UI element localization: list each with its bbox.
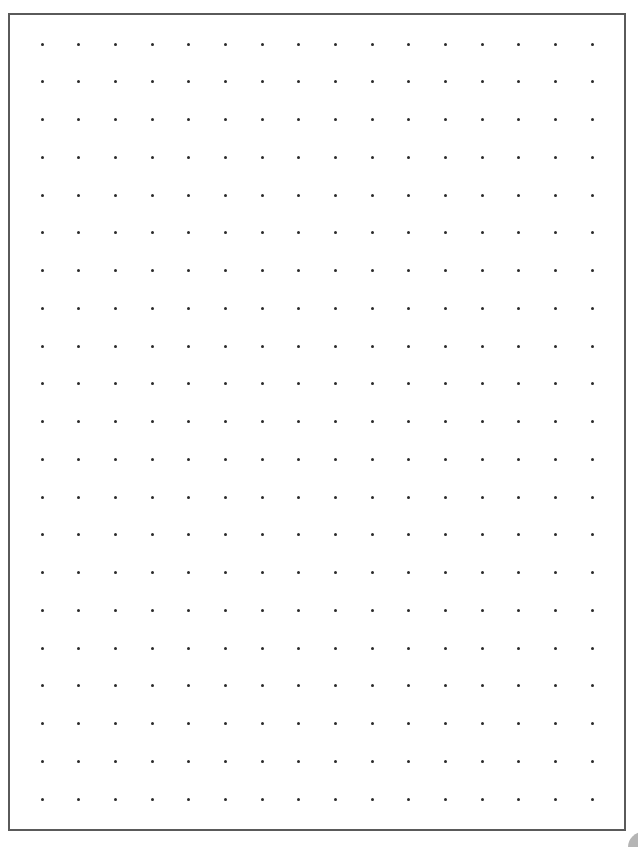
grid-dot xyxy=(371,760,374,763)
grid-dot xyxy=(224,496,227,499)
grid-dot xyxy=(77,760,80,763)
grid-dot xyxy=(554,760,557,763)
grid-dot xyxy=(151,194,154,197)
grid-dot xyxy=(261,609,264,612)
grid-dot xyxy=(481,345,484,348)
grid-dot xyxy=(554,609,557,612)
grid-dot xyxy=(444,43,447,46)
grid-dot xyxy=(77,194,80,197)
grid-dot xyxy=(554,194,557,197)
grid-dot xyxy=(41,798,44,801)
grid-dot xyxy=(114,458,117,461)
grid-dot xyxy=(517,647,520,650)
grid-dot xyxy=(41,231,44,234)
grid-dot xyxy=(371,609,374,612)
grid-dot xyxy=(481,496,484,499)
grid-dot xyxy=(41,80,44,83)
grid-dot xyxy=(444,760,447,763)
grid-dot xyxy=(591,458,594,461)
grid-dot xyxy=(261,43,264,46)
grid-dot xyxy=(591,571,594,574)
grid-dot xyxy=(224,458,227,461)
grid-dot xyxy=(41,420,44,423)
grid-dot xyxy=(261,684,264,687)
grid-dot xyxy=(114,345,117,348)
grid-dot xyxy=(554,458,557,461)
grid-dot xyxy=(554,798,557,801)
grid-dot xyxy=(297,496,300,499)
grid-dot xyxy=(591,269,594,272)
grid-dot xyxy=(591,533,594,536)
grid-dot xyxy=(151,760,154,763)
grid-dot xyxy=(517,345,520,348)
grid-dot xyxy=(334,458,337,461)
grid-dot xyxy=(297,156,300,159)
grid-dot xyxy=(41,156,44,159)
grid-dot xyxy=(371,571,374,574)
grid-dot xyxy=(224,571,227,574)
grid-dot xyxy=(444,458,447,461)
grid-dot xyxy=(187,798,190,801)
grid-dot xyxy=(114,156,117,159)
grid-dot xyxy=(591,760,594,763)
grid-dot xyxy=(444,345,447,348)
grid-dot xyxy=(591,194,594,197)
grid-dot xyxy=(481,420,484,423)
grid-dot xyxy=(151,571,154,574)
grid-dot xyxy=(261,156,264,159)
grid-dot xyxy=(444,647,447,650)
grid-dot xyxy=(554,647,557,650)
grid-dot xyxy=(261,382,264,385)
grid-dot xyxy=(444,420,447,423)
grid-dot xyxy=(297,458,300,461)
grid-dot xyxy=(407,458,410,461)
grid-dot xyxy=(151,647,154,650)
grid-dot xyxy=(41,496,44,499)
grid-dot xyxy=(481,307,484,310)
grid-dot xyxy=(591,609,594,612)
grid-dot xyxy=(334,496,337,499)
grid-dot xyxy=(261,118,264,121)
grid-dot xyxy=(41,345,44,348)
grid-dot xyxy=(151,118,154,121)
grid-dot xyxy=(114,496,117,499)
grid-dot xyxy=(444,307,447,310)
grid-dot xyxy=(224,420,227,423)
grid-dot xyxy=(371,420,374,423)
grid-dot xyxy=(407,43,410,46)
grid-dot xyxy=(77,609,80,612)
grid-dot xyxy=(41,533,44,536)
grid-dot xyxy=(407,345,410,348)
grid-dot xyxy=(334,307,337,310)
grid-dot xyxy=(334,118,337,121)
grid-dot xyxy=(187,194,190,197)
grid-dot xyxy=(591,420,594,423)
grid-dot xyxy=(591,118,594,121)
grid-dot xyxy=(151,798,154,801)
grid-dot xyxy=(224,345,227,348)
grid-dot xyxy=(261,571,264,574)
grid-dot xyxy=(591,382,594,385)
grid-dot xyxy=(407,307,410,310)
grid-dot xyxy=(114,647,117,650)
grid-dot xyxy=(151,231,154,234)
grid-dot xyxy=(261,269,264,272)
grid-dot xyxy=(41,609,44,612)
grid-dot xyxy=(371,647,374,650)
grid-dot xyxy=(224,118,227,121)
grid-dot xyxy=(187,760,190,763)
grid-dot xyxy=(261,496,264,499)
grid-dot xyxy=(517,496,520,499)
grid-dot xyxy=(151,345,154,348)
grid-dot xyxy=(114,609,117,612)
dot-grid-frame xyxy=(8,13,626,831)
page xyxy=(0,0,638,847)
grid-dot xyxy=(371,231,374,234)
grid-dot xyxy=(41,760,44,763)
grid-dot xyxy=(187,647,190,650)
grid-dot xyxy=(517,609,520,612)
page-curl-icon xyxy=(628,832,638,847)
grid-dot xyxy=(77,647,80,650)
grid-dot xyxy=(591,80,594,83)
grid-dot xyxy=(224,798,227,801)
